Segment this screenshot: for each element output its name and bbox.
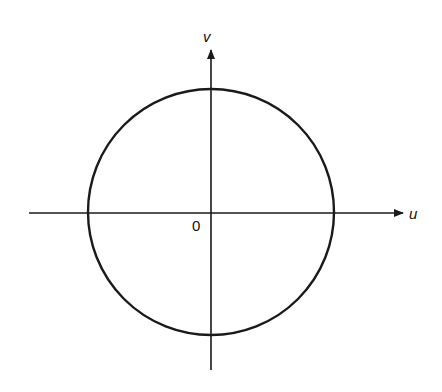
diagram-canvas: v u 0	[0, 0, 442, 392]
origin-label: 0	[192, 217, 200, 234]
u-axis-label: u	[409, 205, 418, 222]
v-axis-label: v	[203, 28, 212, 45]
